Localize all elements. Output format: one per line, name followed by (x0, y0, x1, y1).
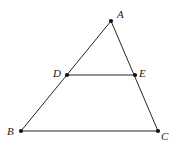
vertex-dot-b (19, 129, 23, 133)
vertex-dot-c (156, 129, 160, 133)
geometry-figure: A B C D E (0, 0, 181, 159)
vertex-dot-e (133, 73, 137, 77)
vertex-label-c: C (161, 131, 168, 142)
vertex-label-a: A (117, 9, 124, 20)
vertex-label-d: D (53, 68, 61, 79)
vertex-dot-d (65, 73, 69, 77)
vertex-label-b: B (7, 126, 14, 137)
vertex-label-e: E (139, 68, 146, 79)
geometry-canvas (0, 0, 181, 159)
vertex-dot-a (109, 19, 113, 23)
